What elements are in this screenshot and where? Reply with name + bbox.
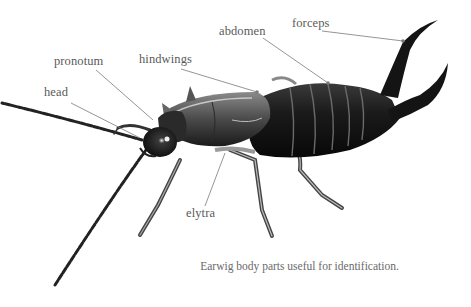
leader-line-head <box>71 103 140 138</box>
abdomen-icon <box>249 78 400 158</box>
label-head: head <box>44 85 68 100</box>
leader-line-abdomen <box>263 38 328 83</box>
leader-line-hindwings <box>181 69 257 92</box>
label-hindwings: hindwings <box>139 52 192 67</box>
figure-caption: Earwig body parts useful for identificat… <box>0 260 471 272</box>
earwig-diagram: forceps abdomen hindwings pronotum head … <box>0 0 471 307</box>
label-pronotum: pronotum <box>54 54 103 69</box>
leader-line-pronotum <box>96 70 153 120</box>
label-forceps: forceps <box>292 16 330 31</box>
label-elytra: elytra <box>186 206 215 221</box>
label-abdomen: abdomen <box>219 24 266 39</box>
leader-line-elytra <box>205 153 225 206</box>
leader-line-forceps <box>322 31 403 41</box>
